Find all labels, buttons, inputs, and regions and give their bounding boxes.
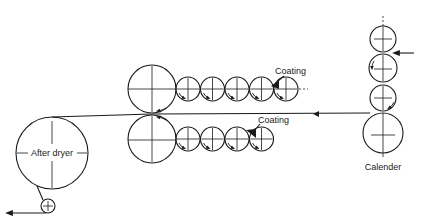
after-dryer-label: After dryer xyxy=(31,148,73,158)
calender-roll-1 xyxy=(370,26,396,52)
web-direction-arrow-icon xyxy=(313,111,319,117)
coating-leader-top xyxy=(278,76,284,81)
calender-roll-3 xyxy=(370,85,396,111)
bottom-small-roll-2 xyxy=(201,127,225,151)
after-dryer: After dryer xyxy=(9,117,88,213)
calender-roll-2 xyxy=(369,54,397,82)
bottom-small-rolls xyxy=(176,127,274,151)
top-small-roll-2 xyxy=(201,77,225,101)
web-line-to-dryer xyxy=(52,114,152,117)
bottom-small-roll-1 xyxy=(176,127,200,151)
top-small-roll-3 xyxy=(225,77,249,101)
bottom-small-roll-3 xyxy=(225,127,249,151)
web-line-calender xyxy=(152,113,370,114)
rotation-arrow-icon xyxy=(372,61,374,68)
top-small-roll-4 xyxy=(250,77,274,101)
top-small-roll-5 xyxy=(274,77,298,101)
coating-line-diagram: Calender Coating Coating xyxy=(0,0,422,223)
calender-label: Calender xyxy=(365,162,402,172)
exit-roll xyxy=(41,199,55,213)
calender-stack: Calender xyxy=(363,16,414,172)
bottom-large-roll xyxy=(128,115,176,163)
top-large-roll xyxy=(128,65,176,113)
top-small-roll-1 xyxy=(176,77,200,101)
bottom-coater: Coating xyxy=(128,115,289,163)
calender-roll-4 xyxy=(363,113,403,157)
top-small-rolls xyxy=(176,77,298,101)
coating-label-top: Coating xyxy=(275,66,306,76)
coating-label-bottom: Coating xyxy=(258,115,289,125)
diagram-canvas: Calender Coating Coating xyxy=(0,0,422,223)
top-coater: Coating xyxy=(128,65,308,113)
